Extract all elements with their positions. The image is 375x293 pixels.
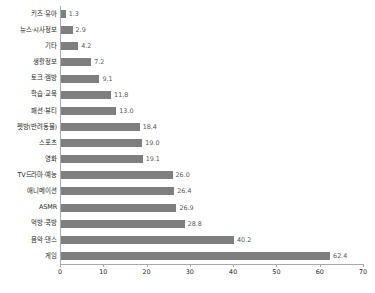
bar-row: 기타4.2	[0, 38, 375, 54]
bar-row: 영화19.1	[0, 151, 375, 167]
x-axis-tick-label: 50	[272, 269, 280, 275]
x-axis-tick-label: 10	[99, 269, 107, 275]
category-label: 토크·캠방	[0, 75, 57, 81]
bar-track: 4.2	[57, 38, 375, 54]
bar	[60, 155, 143, 163]
bar-value-label: 18.4	[143, 124, 157, 130]
bar-row: ASMR26.9	[0, 200, 375, 216]
bar	[60, 91, 111, 99]
bar-value-label: 19.1	[146, 156, 160, 162]
bar-track: 26.9	[57, 200, 375, 216]
bar	[60, 75, 99, 83]
chart-rows: 키즈·유아1.3뉴스·시사정보2.9기타4.2생활정보7.2토크·캠방9.1학습…	[0, 6, 375, 264]
x-axis-tick-label: 70	[359, 269, 367, 275]
bar-row: 학습·교육11.8	[0, 87, 375, 103]
bar-value-label: 2.9	[76, 27, 86, 33]
bar	[60, 236, 234, 244]
bar-value-label: 26.9	[179, 204, 193, 210]
x-axis-line	[60, 264, 363, 265]
category-label: 키즈·유아	[0, 11, 57, 17]
bar	[60, 42, 78, 50]
bar-value-label: 40.2	[237, 237, 251, 243]
category-label: ASMR	[0, 204, 57, 210]
x-axis-tick	[233, 264, 234, 267]
bar-value-label: 4.2	[81, 43, 91, 49]
bar-row: 음악·댄스40.2	[0, 232, 375, 248]
category-label: 생활정보	[0, 59, 57, 65]
bar-value-label: 62.4	[333, 253, 347, 259]
x-axis-tick-label: 0	[58, 269, 62, 275]
bar-row: 생활정보7.2	[0, 54, 375, 70]
bar-row: 스포츠19.0	[0, 135, 375, 151]
bar-track: 28.8	[57, 216, 375, 232]
bar-track: 19.0	[57, 135, 375, 151]
bar-track: 26.4	[57, 183, 375, 199]
bar-row: 애니메이션26.4	[0, 183, 375, 199]
bar-track: 9.1	[57, 71, 375, 87]
bar-track: 19.1	[57, 151, 375, 167]
bar-row: 패션·뷰티13.0	[0, 103, 375, 119]
bar-track: 18.4	[57, 119, 375, 135]
bar	[60, 107, 116, 115]
bar-value-label: 9.1	[102, 75, 112, 81]
bar-value-label: 11.8	[114, 91, 128, 97]
bar-row: 게임62.4	[0, 248, 375, 264]
category-label: 음악·댄스	[0, 237, 57, 243]
bar-value-label: 28.8	[188, 220, 202, 226]
bar	[60, 171, 173, 179]
bar-track: 62.4	[57, 248, 375, 264]
bar-track: 40.2	[57, 232, 375, 248]
category-label: 애니메이션	[0, 188, 57, 194]
x-axis-tick-label: 30	[186, 269, 194, 275]
x-axis-tick	[363, 264, 364, 267]
bar-row: TV드라마·예능26.0	[0, 167, 375, 183]
category-label: TV드라마·예능	[0, 172, 57, 178]
y-axis-line	[60, 6, 61, 264]
bar-track: 1.3	[57, 6, 375, 22]
bar-track: 13.0	[57, 103, 375, 119]
bar-row: 키즈·유아1.3	[0, 6, 375, 22]
bar	[60, 252, 330, 260]
category-label: 영화	[0, 156, 57, 162]
x-axis-tick-label: 20	[142, 269, 150, 275]
bar-value-label: 19.0	[145, 140, 159, 146]
bar-value-label: 26.0	[176, 172, 190, 178]
bar-row: 토크·캠방9.1	[0, 71, 375, 87]
x-axis-tick	[103, 264, 104, 267]
x-axis-tick-label: 40	[229, 269, 237, 275]
bar-track: 11.8	[57, 87, 375, 103]
x-axis-tick	[147, 264, 148, 267]
category-label: 먹방·쿡방	[0, 220, 57, 226]
bar	[60, 187, 174, 195]
category-label: 패션·뷰티	[0, 108, 57, 114]
bar-chart: 키즈·유아1.3뉴스·시사정보2.9기타4.2생활정보7.2토크·캠방9.1학습…	[0, 0, 375, 293]
category-label: 게임	[0, 253, 57, 259]
x-axis-tick	[60, 264, 61, 267]
category-label: 학습·교육	[0, 91, 57, 97]
x-axis-tick-label: 60	[316, 269, 324, 275]
category-label: 펫방(반려동물)	[0, 124, 57, 130]
bar	[60, 58, 91, 66]
x-axis-tick	[320, 264, 321, 267]
category-label: 스포츠	[0, 140, 57, 146]
bar	[60, 139, 142, 147]
x-axis-tick	[276, 264, 277, 267]
x-axis-tick	[190, 264, 191, 267]
bar-value-label: 7.2	[94, 59, 104, 65]
category-label: 기타	[0, 43, 57, 49]
bar-value-label: 13.0	[119, 108, 133, 114]
bar-track: 2.9	[57, 22, 375, 38]
bar-row: 먹방·쿡방28.8	[0, 216, 375, 232]
bar-row: 뉴스·시사정보2.9	[0, 22, 375, 38]
bar	[60, 26, 73, 34]
bar-row: 펫방(반려동물)18.4	[0, 119, 375, 135]
bar	[60, 220, 185, 228]
bar-value-label: 1.3	[69, 11, 79, 17]
category-label: 뉴스·시사정보	[0, 27, 57, 33]
bar-track: 26.0	[57, 167, 375, 183]
bar-track: 7.2	[57, 54, 375, 70]
bar	[60, 204, 176, 212]
bar	[60, 123, 140, 131]
bar-value-label: 26.4	[177, 188, 191, 194]
